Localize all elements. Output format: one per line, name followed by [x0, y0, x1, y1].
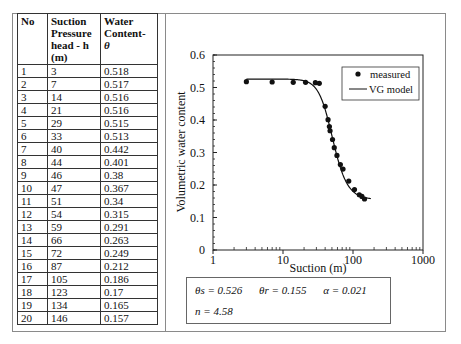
- data-point: [291, 80, 296, 85]
- svg-text:1: 1: [210, 253, 216, 267]
- measured-marker-icon: [355, 71, 360, 76]
- svg-text:1000: 1000: [411, 253, 435, 267]
- x-axis-label: Suction (m): [290, 261, 347, 275]
- data-point: [338, 162, 343, 167]
- svg-text:0.2: 0.2: [190, 178, 205, 192]
- data-point: [317, 81, 322, 86]
- data-point: [332, 145, 337, 150]
- data-point: [327, 128, 332, 133]
- legend-measured: measured: [370, 69, 411, 80]
- svg-text:0.1: 0.1: [190, 211, 205, 225]
- data-point: [270, 79, 275, 84]
- svg-text:0.6: 0.6: [190, 48, 205, 62]
- theta-r-value: θr = 0.155: [259, 284, 306, 296]
- data-point: [346, 179, 351, 184]
- svg-text:100: 100: [344, 253, 362, 267]
- theta-s-value: θs = 0.526: [195, 284, 242, 296]
- data-point: [352, 187, 357, 192]
- alpha-value: α = 0.021: [323, 284, 366, 296]
- data-point: [323, 104, 328, 109]
- parameters-box: θs = 0.526 θr = 0.155 α = 0.021 n = 4.58: [186, 277, 391, 324]
- data-point: [325, 117, 330, 122]
- svg-text:10: 10: [277, 253, 289, 267]
- data-point: [340, 166, 345, 171]
- svg-text:0.5: 0.5: [190, 81, 205, 95]
- svg-text:0: 0: [199, 243, 205, 257]
- y-axis-label: Volumetric water content: [174, 91, 188, 213]
- data-point: [244, 79, 249, 84]
- data-point: [330, 137, 335, 142]
- data-point: [334, 153, 339, 158]
- legend-vg-model: VG model: [369, 84, 413, 95]
- data-point: [303, 80, 308, 85]
- n-value: n = 4.58: [195, 305, 233, 317]
- data-point: [362, 196, 367, 201]
- legend: measured VG model: [342, 67, 419, 100]
- svg-text:0.3: 0.3: [190, 146, 205, 160]
- svg-text:0.4: 0.4: [190, 113, 205, 127]
